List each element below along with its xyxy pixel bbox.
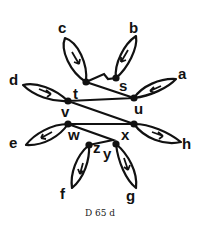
label-v: v <box>61 103 70 120</box>
petal-a <box>134 79 176 98</box>
label-u: u <box>134 100 143 117</box>
label-e: e <box>9 134 17 151</box>
diagram-canvas: c b a d e h f g t s u v x w z y D 65 d <box>0 0 201 230</box>
node-w <box>130 120 137 127</box>
petal-c <box>64 38 87 82</box>
label-y: y <box>103 145 112 162</box>
node-t <box>82 78 89 85</box>
label-s: s <box>119 77 127 94</box>
node-y <box>112 140 119 147</box>
label-t: t <box>73 85 78 102</box>
label-f: f <box>60 185 66 202</box>
petal-d <box>23 84 68 101</box>
label-d: d <box>9 71 18 88</box>
label-g: g <box>126 187 135 204</box>
petal-b <box>116 36 137 78</box>
figure-caption: D 65 d <box>85 208 115 218</box>
petal-e <box>26 124 68 145</box>
label-b: b <box>129 19 138 36</box>
label-a: a <box>178 65 187 82</box>
label-w: x <box>121 126 130 143</box>
label-c: c <box>58 19 66 36</box>
petal-g <box>116 144 136 188</box>
label-h: h <box>182 135 191 152</box>
label-z: z <box>93 139 101 156</box>
label-x: w <box>67 126 80 143</box>
petal-h <box>134 124 181 143</box>
petal-f <box>72 145 89 188</box>
node-z <box>85 141 92 148</box>
